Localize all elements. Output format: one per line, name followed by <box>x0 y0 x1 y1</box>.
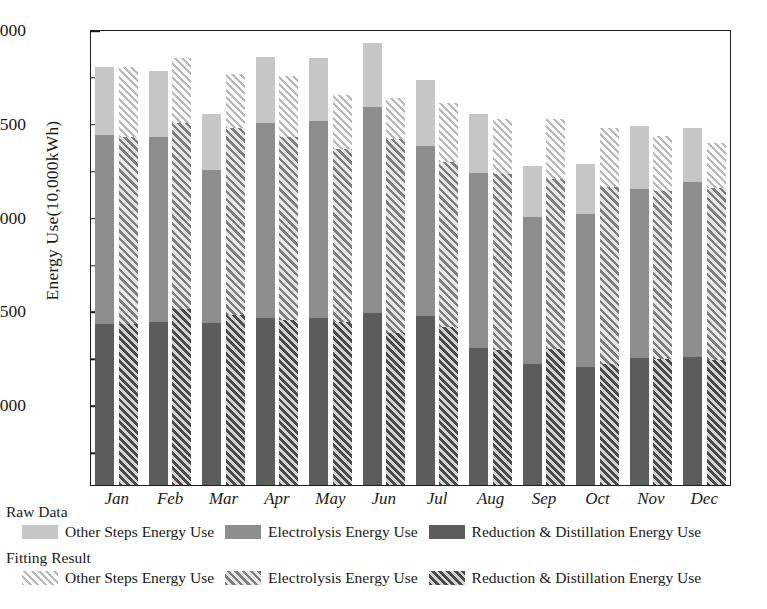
legend-entry[interactable]: Other Steps Energy Use <box>22 569 214 587</box>
bar-segment <box>707 360 726 485</box>
bar-segment <box>386 333 405 485</box>
x-tick-label-jan: Jan <box>104 489 129 509</box>
x-tick-label-oct: Oct <box>585 489 610 509</box>
legend-entry[interactable]: Reduction & Distillation Energy Use <box>429 523 702 541</box>
legend-label: Other Steps Energy Use <box>65 569 214 587</box>
legend-label: Reduction & Distillation Energy Use <box>472 569 702 587</box>
bar-segment <box>119 324 138 485</box>
bar-feb-fitting <box>172 58 191 485</box>
y-tick-mark <box>91 30 100 32</box>
bar-nov-fitting <box>653 136 672 485</box>
legend-swatch-icon <box>429 571 465 585</box>
legend-entry[interactable]: Other Steps Energy Use <box>22 523 214 541</box>
bar-segment <box>493 174 512 350</box>
bar-segment <box>683 128 702 181</box>
x-tick-label-feb: Feb <box>157 489 183 509</box>
x-tick-label-aug: Aug <box>477 489 504 509</box>
legend-group-title: Fitting Result <box>6 549 91 567</box>
bar-segment <box>95 67 114 135</box>
bar-segment <box>630 126 649 189</box>
bar-segment <box>202 323 221 485</box>
bar-segment <box>469 173 488 348</box>
x-tick-label-dec: Dec <box>691 489 718 509</box>
bar-segment <box>600 128 619 187</box>
y-tick-label: 1000 <box>0 395 26 416</box>
bar-segment <box>172 58 191 123</box>
x-tick-label-mar: Mar <box>209 489 238 509</box>
bar-segment <box>149 322 168 485</box>
bar-segment <box>683 357 702 485</box>
bar-segment <box>363 43 382 107</box>
bar-segment <box>600 364 619 485</box>
chart-figure: Energy Use(10,000kWh) 100015002000250030… <box>0 0 767 609</box>
bar-sep-raw <box>523 166 542 485</box>
bar-segment <box>363 107 382 312</box>
legend-row: Other Steps Energy UseElectrolysis Energ… <box>22 569 712 587</box>
bar-segment <box>439 103 458 162</box>
bar-may-raw <box>309 58 328 485</box>
bar-feb-raw <box>149 71 168 485</box>
legend-swatch-icon <box>225 525 261 539</box>
bar-segment <box>653 191 672 359</box>
bar-apr-raw <box>256 57 275 485</box>
bar-jul-raw <box>416 80 435 485</box>
legend-swatch-icon <box>22 525 58 539</box>
bar-segment <box>469 114 488 173</box>
y-tick-label: 2500 <box>0 113 26 134</box>
bar-segment <box>707 143 726 189</box>
legend-entry[interactable]: Electrolysis Energy Use <box>225 523 418 541</box>
bar-segment <box>653 359 672 485</box>
bar-segment <box>256 318 275 485</box>
bar-jun-raw <box>363 43 382 485</box>
bar-segment <box>119 67 138 137</box>
legend-swatch-icon <box>429 525 465 539</box>
bar-segment <box>546 119 565 179</box>
bar-segment <box>386 98 405 140</box>
bar-jun-fitting <box>386 98 405 486</box>
bar-segment <box>363 313 382 485</box>
bar-segment <box>707 188 726 360</box>
x-tick-label-jul: Jul <box>427 489 448 509</box>
bar-segment <box>256 57 275 123</box>
x-tick-label-apr: Apr <box>264 489 290 509</box>
y-tick-label: 1500 <box>0 301 26 322</box>
bar-segment <box>416 80 435 147</box>
bar-dec-fitting <box>707 143 726 485</box>
bar-segment <box>576 214 595 367</box>
y-tick-label: 2000 <box>0 207 26 228</box>
legend-entry[interactable]: Reduction & Distillation Energy Use <box>429 569 702 587</box>
legend-group-title: Raw Data <box>6 503 68 521</box>
bar-aug-fitting <box>493 119 512 485</box>
bar-segment <box>333 149 352 322</box>
bar-segment <box>493 350 512 485</box>
bar-segment <box>523 166 542 217</box>
bar-mar-fitting <box>226 74 245 485</box>
bar-segment <box>416 316 435 485</box>
bar-segment <box>226 128 245 315</box>
bar-segment <box>172 309 191 485</box>
bar-segment <box>333 95 352 149</box>
bar-segment <box>386 139 405 332</box>
bar-nov-raw <box>630 126 649 485</box>
bar-segment <box>309 318 328 485</box>
bar-sep-fitting <box>546 119 565 485</box>
bar-jul-fitting <box>439 103 458 485</box>
bar-oct-fitting <box>600 128 619 485</box>
bar-segment <box>493 119 512 173</box>
bar-segment <box>309 58 328 121</box>
x-tick-label-nov: Nov <box>637 489 664 509</box>
bar-segment <box>653 136 672 191</box>
bar-segment <box>469 348 488 485</box>
bar-jan-fitting <box>119 67 138 485</box>
legend-swatch-icon <box>225 571 261 585</box>
bar-mar-raw <box>202 114 221 485</box>
legend-label: Other Steps Energy Use <box>65 523 214 541</box>
legend-label: Electrolysis Energy Use <box>268 569 418 587</box>
bar-segment <box>149 71 168 137</box>
bar-segment <box>523 364 542 485</box>
legend-entry[interactable]: Electrolysis Energy Use <box>225 569 418 587</box>
bar-segment <box>576 367 595 485</box>
bar-segment <box>279 137 298 320</box>
x-tick-label-may: May <box>315 489 345 509</box>
bar-segment <box>630 358 649 485</box>
